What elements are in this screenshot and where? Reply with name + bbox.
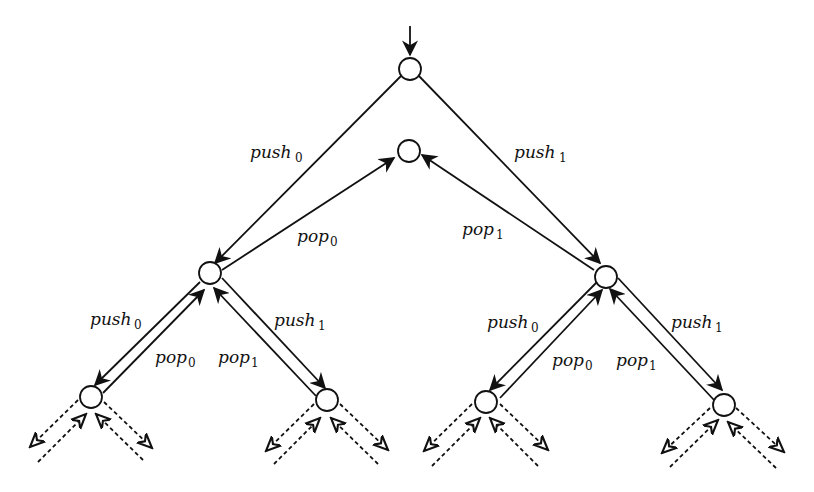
label-pop1-root: pop 1 (462, 219, 504, 242)
label-push1-left: push 1 (274, 310, 326, 333)
svg-text:1: 1 (251, 356, 259, 370)
svg-text:push: push (487, 312, 529, 332)
svg-text:push: push (274, 310, 316, 330)
label-push1-right: push 1 (671, 312, 723, 335)
svg-text:0: 0 (295, 151, 303, 165)
svg-text:pop: pop (616, 350, 648, 370)
label-pop0-right: pop 0 (552, 350, 593, 373)
label-push0-left: push 0 (90, 309, 142, 332)
svg-text:1: 1 (715, 321, 723, 335)
svg-text:push: push (514, 142, 556, 162)
edge-pop0-left (103, 290, 204, 393)
label-push0-right: push 0 (487, 312, 539, 335)
svg-text:pop: pop (155, 347, 187, 367)
label-pop1-right: pop 1 (616, 350, 657, 373)
svg-text:0: 0 (531, 321, 539, 335)
edge-push1-right (618, 278, 722, 390)
svg-text:0: 0 (330, 235, 338, 249)
svg-text:push: push (90, 309, 132, 329)
node-empty (398, 140, 420, 162)
node-s10 (475, 391, 497, 413)
node-start (399, 58, 421, 80)
edge-push1-left (222, 278, 325, 388)
svg-text:push: push (250, 142, 292, 162)
svg-text:push: push (671, 312, 713, 332)
edge-push0-left (95, 282, 200, 385)
node-s00 (80, 386, 102, 408)
svg-text:pop: pop (462, 219, 494, 239)
edge-pop1-root (422, 155, 594, 270)
svg-text:pop: pop (552, 350, 584, 370)
node-s0 (199, 262, 221, 284)
svg-text:0: 0 (585, 359, 593, 373)
svg-text:1: 1 (496, 228, 504, 242)
svg-text:1: 1 (649, 359, 657, 373)
edge-pop1-right (610, 289, 714, 400)
edge-pop0-root (222, 158, 394, 270)
label-pop1-left: pop 1 (218, 347, 259, 370)
svg-text:0: 0 (188, 356, 196, 370)
label-pop0-root: pop 0 (297, 226, 338, 249)
edge-pop0-right (500, 290, 602, 398)
node-s1 (595, 266, 617, 288)
svg-text:pop: pop (297, 226, 329, 246)
stack-tree-diagram: push 0 push 1 pop 0 pop 1 push 0 pop 0 p… (0, 0, 814, 492)
dotted-continuations (30, 400, 784, 468)
edge-push0-right (490, 282, 597, 390)
svg-text:pop: pop (218, 347, 250, 367)
svg-text:1: 1 (318, 319, 326, 333)
label-push1-root: push 1 (514, 142, 567, 165)
svg-text:0: 0 (134, 318, 142, 332)
edge-push1-root (418, 75, 600, 263)
edge-pop1-left (214, 288, 316, 396)
node-s11 (713, 394, 735, 416)
label-pop0-left: pop 0 (155, 347, 196, 370)
svg-text:1: 1 (559, 151, 567, 165)
node-s01 (316, 389, 338, 411)
label-push0-root: push 0 (250, 142, 303, 165)
